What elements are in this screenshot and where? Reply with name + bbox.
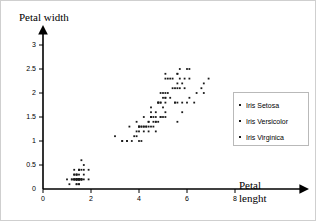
data-point (150, 126, 152, 128)
data-point (81, 169, 83, 171)
data-point (189, 97, 191, 99)
data-point (81, 179, 83, 181)
data-point (162, 116, 164, 118)
data-point (184, 87, 186, 89)
data-point (141, 126, 143, 128)
data-point (172, 78, 174, 80)
data-point (71, 179, 73, 181)
data-point (181, 111, 183, 113)
data-point (172, 87, 174, 89)
data-point (177, 83, 179, 85)
data-point (148, 126, 150, 128)
data-point (160, 92, 162, 94)
data-point (189, 68, 191, 70)
x-axis-title: Petallenght (239, 179, 267, 205)
y-tick-label: 3 (15, 41, 36, 48)
data-point (143, 116, 145, 118)
data-point (203, 83, 205, 85)
data-point (165, 102, 167, 104)
data-point (73, 174, 75, 176)
data-point (143, 126, 145, 128)
data-point (165, 78, 167, 80)
data-point (148, 121, 150, 123)
data-point (157, 121, 159, 123)
data-point (160, 116, 162, 118)
data-point (189, 78, 191, 80)
data-point (66, 179, 68, 181)
data-point (141, 140, 143, 142)
x-tick-label: 2 (85, 195, 97, 202)
legend-item-versicolor[interactable]: Iris Versicolor (239, 113, 308, 129)
data-point (169, 97, 171, 99)
data-point (201, 87, 203, 89)
data-point (155, 111, 157, 113)
legend-marker-icon (239, 136, 241, 138)
data-point (126, 140, 128, 142)
data-point (129, 126, 131, 128)
data-point (165, 111, 167, 113)
data-point (162, 107, 164, 109)
data-point (153, 116, 155, 118)
data-point (155, 131, 157, 133)
data-point (78, 174, 80, 176)
data-point (83, 174, 85, 176)
data-point (83, 164, 85, 166)
x-axis-title-line2: lenght (239, 192, 267, 204)
data-point (167, 92, 169, 94)
y-tick-label: 1 (15, 137, 36, 144)
legend-label: Iris Versicolor (246, 118, 288, 125)
legend-marker-icon (239, 104, 241, 106)
data-point (83, 169, 85, 171)
data-point (78, 169, 80, 171)
data-point (138, 131, 140, 133)
data-point (186, 102, 188, 104)
data-point (76, 183, 78, 185)
data-points (66, 68, 209, 185)
data-point (69, 183, 71, 185)
data-point (131, 140, 133, 142)
data-point (193, 102, 195, 104)
legend: Iris Setosa Iris Versicolor Iris Virgini… (233, 92, 309, 146)
data-point (186, 68, 188, 70)
data-point (181, 102, 183, 104)
data-point (177, 121, 179, 123)
y-axis-title: Petal width (19, 11, 69, 23)
data-point (150, 116, 152, 118)
data-point (155, 121, 157, 123)
legend-label: Iris Setosa (246, 102, 279, 109)
data-point (136, 135, 138, 137)
data-point (174, 102, 176, 104)
y-tick-label: 0 (15, 185, 36, 192)
data-point (145, 126, 147, 128)
data-point (177, 73, 179, 75)
data-point (165, 92, 167, 94)
x-tick-label: 8 (229, 195, 241, 202)
y-tick-label: 0.5 (15, 161, 36, 168)
data-point (78, 183, 80, 185)
data-point (179, 68, 181, 70)
data-point (78, 179, 80, 181)
y-tick-label: 2 (15, 89, 36, 96)
data-point (184, 78, 186, 80)
data-point (88, 169, 90, 171)
data-point (179, 87, 181, 89)
data-point (208, 78, 210, 80)
data-point (155, 116, 157, 118)
data-point (157, 102, 159, 104)
legend-marker-icon (239, 120, 241, 122)
y-tick-label: 2.5 (15, 65, 36, 72)
legend-item-setosa[interactable]: Iris Setosa (239, 97, 308, 113)
data-point (136, 131, 138, 133)
data-point (165, 116, 167, 118)
data-point (167, 78, 169, 80)
data-point (73, 169, 75, 171)
data-point (136, 121, 138, 123)
legend-item-virginica[interactable]: Iris Virginica (239, 129, 308, 145)
data-point (162, 92, 164, 94)
data-point (150, 107, 152, 109)
data-point (73, 179, 75, 181)
data-point (196, 92, 198, 94)
data-point (76, 174, 78, 176)
x-tick-label: 0 (37, 195, 49, 202)
data-point (181, 83, 183, 85)
